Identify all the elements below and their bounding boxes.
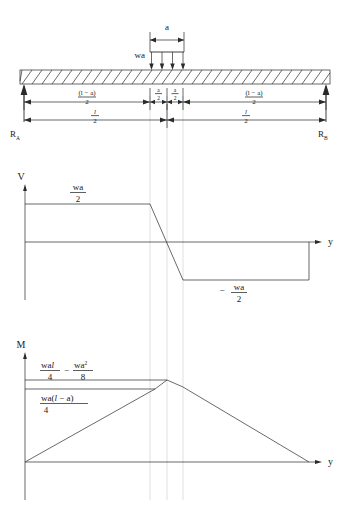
load-arrow-2 xyxy=(160,64,164,71)
dim-center-right-a-over-2: a 2 xyxy=(172,87,179,101)
svg-text:wa: wa xyxy=(73,182,84,192)
dim-arrow-half1-left xyxy=(24,118,31,123)
load-span-label: a xyxy=(165,22,169,32)
reaction-arrow-right xyxy=(323,84,330,95)
svg-text:2: 2 xyxy=(85,98,89,106)
dim-arrow-a1-left xyxy=(150,100,155,104)
shear-diagram: V y wa 2 − wa 2 xyxy=(17,171,333,304)
svg-text:8: 8 xyxy=(81,372,86,382)
dim-arrow-l2-left xyxy=(183,100,190,105)
svg-text:(l − a): (l − a) xyxy=(78,89,96,97)
svg-text:2: 2 xyxy=(93,117,97,125)
shear-axis-y-label: V xyxy=(17,171,25,182)
shear-positive-label: wa 2 xyxy=(70,182,86,204)
beam-hatching xyxy=(20,70,330,84)
moment-peak-term2-numerator: wa2 xyxy=(74,360,88,370)
moment-y-axis-arrow xyxy=(315,460,322,464)
svg-text:2: 2 xyxy=(237,294,242,304)
dim-arrow-half2-right xyxy=(319,118,326,123)
svg-text:4: 4 xyxy=(48,372,53,382)
svg-text:2: 2 xyxy=(76,194,81,204)
support-reactions: RA RB xyxy=(10,84,329,141)
dim-arrow-l1-left xyxy=(24,100,31,105)
shear-axis-x-label: y xyxy=(328,236,333,247)
load-span-dimension: a xyxy=(150,22,184,52)
dim-arrow-a1-right xyxy=(162,100,167,104)
svg-text:a: a xyxy=(157,87,160,93)
dim-right-la-over-2: (l − a) 2 xyxy=(245,89,263,106)
load-arrow-3 xyxy=(170,64,174,71)
beam-shear-moment-figure: a wa xyxy=(0,0,353,516)
svg-text:l: l xyxy=(245,108,247,116)
dim-arrow-a2-right xyxy=(178,100,183,104)
load-arrow-4 xyxy=(181,64,185,71)
moment-peak-term1-numerator: wal xyxy=(41,360,55,370)
shear-negative-label: − wa 2 xyxy=(219,282,247,304)
dim-half-right-l-over-2: l 2 xyxy=(242,108,250,125)
svg-text:2: 2 xyxy=(244,117,248,125)
reaction-arrow-left xyxy=(21,84,28,95)
svg-text:(l − a): (l − a) xyxy=(245,89,263,97)
svg-text:wa: wa xyxy=(234,282,245,292)
dim-arrow-right-a xyxy=(178,38,184,43)
beam-body xyxy=(20,70,330,84)
reaction-left-label: RA xyxy=(10,129,20,141)
svg-text:2: 2 xyxy=(174,95,177,101)
dimension-row-upper: (l − a) 2 a 2 a 2 xyxy=(24,87,326,110)
moment-peak-label: wal 4 − wa2 8 xyxy=(40,360,93,382)
distributed-load: wa xyxy=(135,50,186,70)
dim-arrow-half2-left xyxy=(167,118,174,123)
load-arrow-1 xyxy=(149,64,153,71)
dim-arrow-l1-right xyxy=(143,100,150,105)
moment-secondary-label: wa(l − a) 4 xyxy=(40,393,88,415)
figure-canvas: a wa xyxy=(0,0,353,516)
dim-arrow-half1-right xyxy=(160,118,167,123)
dim-center-left-a-over-2: a 2 xyxy=(155,87,162,101)
svg-text:a: a xyxy=(174,87,177,93)
dim-left-la-over-2: (l − a) 2 xyxy=(78,89,96,106)
projection-lines xyxy=(150,96,183,500)
moment-diagram: M y wal 4 − wa2 8 wa(l − a) 4 xyxy=(17,339,333,500)
load-label: wa xyxy=(135,50,146,60)
moment-axis-y-label: M xyxy=(17,339,26,350)
moment-axis-arrow xyxy=(23,352,27,359)
beam-diagram: a wa xyxy=(10,22,330,141)
reaction-right-label: RB xyxy=(318,129,328,141)
dimension-row-lower: l 2 l 2 xyxy=(24,104,326,128)
moment-secondary-numerator: wa(l − a) xyxy=(41,393,74,403)
moment-peak-operator: − xyxy=(64,365,69,375)
moment-axis-x-label: y xyxy=(328,456,333,467)
dim-arrow-a2-left xyxy=(167,100,172,104)
dim-arrow-l2-right xyxy=(319,100,326,105)
dim-arrow-left-a xyxy=(150,38,156,43)
svg-text:2: 2 xyxy=(157,95,160,101)
shear-y-axis-arrow xyxy=(315,240,322,244)
svg-text:2: 2 xyxy=(252,98,256,106)
dim-half-left-l-over-2: l 2 xyxy=(91,108,99,125)
svg-text:4: 4 xyxy=(44,405,49,415)
svg-text:−: − xyxy=(219,285,224,295)
svg-text:l: l xyxy=(94,108,96,116)
shear-axis-arrow xyxy=(23,184,27,191)
